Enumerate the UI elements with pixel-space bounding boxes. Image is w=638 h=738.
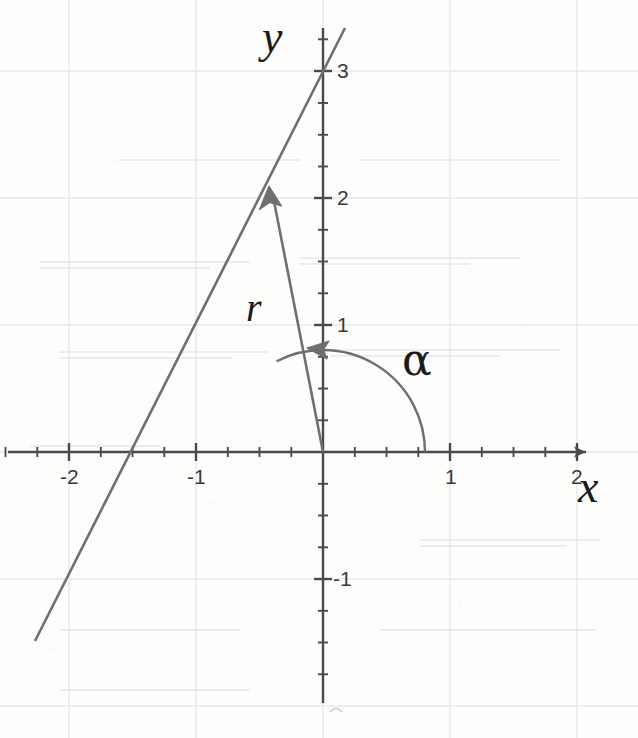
clipped-ytick-minus2 [330,709,342,713]
x-tick-label-2: 2 [571,466,583,487]
plot-line [35,28,345,641]
y-tick-label-2: 2 [337,187,349,208]
background-grid [0,0,638,738]
x-tick-label-1: 1 [445,466,457,487]
y-tick-label-3: 3 [337,60,349,81]
angle-label: α [402,338,432,382]
y-axis [314,28,332,703]
x-tick-label-minus1: -1 [187,466,206,487]
y-axis-label: y [262,14,282,60]
figure-canvas: y x r α -2 -1 1 2 3 2 1 -1 [0,0,638,738]
coordinate-plot [0,0,638,738]
y-tick-label-1: 1 [337,314,349,335]
radius-label: r [246,288,262,328]
radius-vector [260,186,324,452]
y-tick-label-minus1: -1 [333,568,352,589]
paper-showthrough [30,160,600,690]
x-tick-label-minus2: -2 [60,466,79,487]
